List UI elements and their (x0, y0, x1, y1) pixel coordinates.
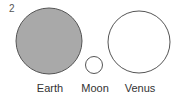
earth-label: Earth (37, 83, 63, 94)
moon-circle (86, 57, 103, 74)
venus-circle (108, 11, 170, 73)
earth-circle (16, 8, 82, 74)
moon-label: Moon (81, 83, 109, 94)
venus-label: Venus (125, 83, 156, 94)
planet-size-diagram (0, 0, 178, 95)
